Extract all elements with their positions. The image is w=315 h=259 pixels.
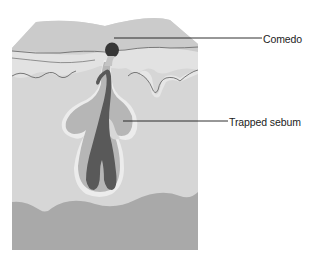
label-comedo: Comedo (263, 33, 302, 45)
label-trapped-sebum: Trapped sebum (229, 116, 301, 128)
comedo-plug (105, 43, 119, 58)
